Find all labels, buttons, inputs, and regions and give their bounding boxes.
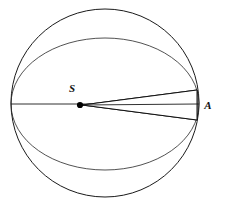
point-s-label: S <box>69 82 75 94</box>
point-a-label: A <box>203 99 211 111</box>
sphere-cone-diagram: S A <box>0 0 226 206</box>
figure-root: S A <box>0 0 226 206</box>
hatched-cone-group <box>0 0 226 206</box>
point-s-dot <box>77 102 83 108</box>
